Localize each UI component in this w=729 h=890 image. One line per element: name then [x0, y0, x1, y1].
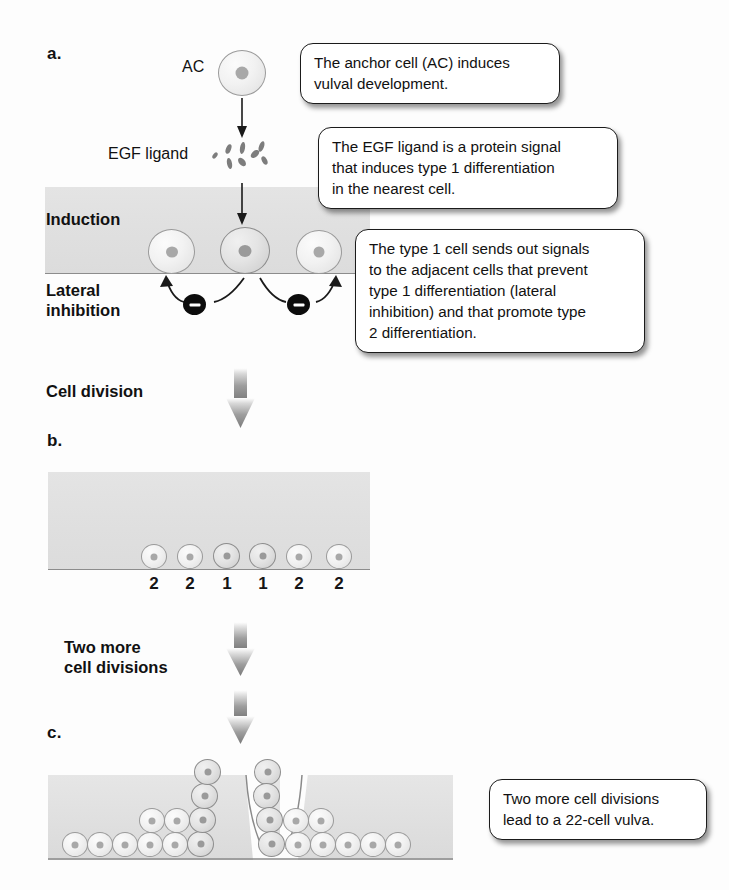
cell-nucleus [345, 841, 352, 848]
panel-c-cell [256, 807, 283, 833]
cell-nucleus [72, 841, 79, 848]
callout-line: lead to a 22-cell vulva. [503, 809, 693, 830]
panel-c-cell [62, 832, 88, 857]
cell-nucleus [395, 841, 402, 848]
panel-c-cell [191, 783, 218, 809]
cell-type-number: 1 [217, 574, 237, 594]
egf-ligand-label: EGF ligand [108, 145, 188, 163]
ligand-particle [226, 158, 233, 170]
two-more-divisions-label: Two morecell divisions [64, 637, 168, 677]
cell-nucleus [264, 769, 271, 776]
cell-nucleus [149, 817, 156, 824]
panel-label-c: c. [47, 723, 62, 743]
panel-c-cell [308, 808, 334, 833]
two-more-line-1: Two more [64, 638, 141, 656]
cell-nucleus [172, 841, 179, 848]
cell-nucleus [314, 247, 325, 258]
cell-nucleus [263, 793, 270, 800]
egf-ligand-callout: The EGF ligand is a protein signal that … [318, 127, 618, 209]
cell-nucleus [199, 817, 206, 824]
arrow-ligand-to-cell [232, 183, 256, 227]
egf-ligand-particles [212, 140, 278, 176]
vulval-development-figure: a. AC EGF ligand Induction [0, 0, 729, 890]
induction-cell-left [148, 229, 195, 274]
callout-line: The anchor cell (AC) induces [314, 52, 546, 73]
lateral-inhibition-label: Lateralinhibition [46, 280, 120, 320]
cell-nucleus [266, 817, 273, 824]
ligand-particle [236, 156, 247, 168]
ligand-particle [260, 155, 269, 165]
panel-label-a: a. [47, 44, 62, 64]
anchor-cell-label: AC [182, 58, 204, 76]
panel-c-cell [360, 832, 386, 857]
callout-line: in the nearest cell. [332, 178, 604, 199]
induction-cell-center-type1 [220, 227, 270, 274]
panel-c-cell [335, 832, 361, 857]
cell-type-number: 2 [289, 574, 309, 594]
anchor-cell [218, 50, 266, 96]
callout-line: The EGF ligand is a protein signal [332, 136, 604, 157]
panel-c-cell [254, 759, 281, 785]
cell-nucleus [370, 841, 377, 848]
panel-c-cell [187, 831, 214, 857]
panel-b-cell-4 [249, 543, 276, 569]
anchor-cell-callout: The anchor cell (AC) induces vulval deve… [300, 43, 560, 104]
arrow-two-more-divisions-lower [224, 690, 258, 746]
cell-nucleus [187, 553, 194, 560]
callout-line: 2 differentiation. [369, 322, 631, 343]
anchor-cell-nucleus [236, 67, 249, 80]
cell-nucleus [296, 553, 303, 560]
panel-c-cell [385, 832, 411, 857]
lateral-inhibition-line-2: inhibition [46, 301, 120, 319]
panel-c-cell [162, 832, 188, 857]
ligand-particle [257, 140, 265, 152]
cell-nucleus [295, 841, 302, 848]
inhibition-badge-right [287, 294, 310, 315]
callout-line: vulval development. [314, 73, 546, 94]
ligand-particle [239, 142, 246, 155]
panel-c-cell [164, 808, 190, 833]
callout-line: type 1 differentiation (lateral [369, 280, 631, 301]
arrow-ac-to-ligand [232, 98, 256, 140]
cell-nucleus [204, 769, 211, 776]
cell-nucleus [147, 841, 154, 848]
callout-line: inhibition) and that promote type [369, 301, 631, 322]
ligand-particle [211, 152, 218, 160]
callout-line: to the adjacent cells that prevent [369, 259, 631, 280]
cell-nucleus [166, 246, 178, 257]
panel-c-cell [253, 783, 280, 809]
panel-c-cell [194, 759, 221, 785]
vulva-result-callout: Two more cell divisions lead to a 22-cel… [489, 779, 707, 840]
cell-nucleus [336, 553, 343, 560]
lateral-inhibition-line-1: Lateral [46, 281, 100, 299]
panel-b-basement-line [48, 569, 370, 570]
panel-label-b: b. [47, 431, 63, 451]
cell-nucleus [318, 817, 325, 824]
panel-b-tissue [48, 472, 370, 569]
callout-line: that induces type 1 differentiation [332, 157, 604, 178]
cell-type-number: 2 [180, 574, 200, 594]
cell-nucleus [223, 553, 230, 560]
inhibition-badge-left [183, 294, 206, 315]
cell-nucleus [97, 841, 104, 848]
panel-b-cell-1 [141, 544, 167, 569]
arrow-two-more-divisions-upper [224, 622, 258, 678]
cell-type-number: 1 [253, 574, 273, 594]
callout-line: The type 1 cell sends out signals [369, 238, 631, 259]
cell-type-number: 2 [144, 574, 164, 594]
induction-cell-right [296, 230, 342, 274]
panel-b-cell-3 [213, 543, 240, 569]
arrow-cell-division [224, 368, 258, 430]
callout-line: Two more cell divisions [503, 788, 693, 809]
cell-nucleus [268, 841, 275, 848]
two-more-line-2: cell divisions [64, 658, 168, 676]
cell-nucleus [197, 841, 204, 848]
panel-c-cell [310, 832, 336, 857]
panel-b-cell-6 [326, 544, 352, 569]
panel-c-cell [283, 808, 309, 833]
ligand-particle [224, 143, 232, 154]
panel-c-cell [258, 831, 285, 857]
lateral-inhibition-callout: The type 1 cell sends out signals to the… [355, 229, 645, 353]
cell-nucleus [293, 817, 300, 824]
panel-c-cell [189, 807, 216, 833]
